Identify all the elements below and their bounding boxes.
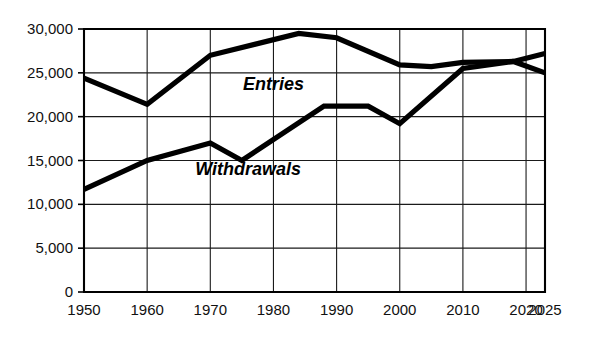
y-axis-label-0: 0 (65, 283, 73, 300)
line-chart: 05,00010,00015,00020,00025,00030,000 195… (0, 0, 601, 341)
y-axis-labels: 05,00010,00015,00020,00025,00030,000 (27, 20, 73, 300)
series-annotations: EntriesWithdrawals (195, 74, 304, 178)
x-axis-label-1970: 1970 (194, 301, 227, 318)
x-axis-label-2000: 2000 (383, 301, 416, 318)
y-axis-label-10000: 10,000 (27, 195, 73, 212)
y-axis-label-30000: 30,000 (27, 20, 73, 37)
y-axis-label-25000: 25,000 (27, 64, 73, 81)
data-series-group (84, 33, 545, 189)
y-axis-label-5000: 5,000 (35, 239, 73, 256)
x-axis-label-1980: 1980 (257, 301, 290, 318)
x-axis-label-2010: 2010 (446, 301, 479, 318)
x-axis-label-1950: 1950 (67, 301, 100, 318)
y-axis-label-15000: 15,000 (27, 152, 73, 169)
withdrawals-label: Withdrawals (195, 159, 301, 179)
y-axis-label-20000: 20,000 (27, 108, 73, 125)
x-axis-labels: 195019601970198019902000201020202025 (67, 301, 561, 318)
x-axis-label-1960: 1960 (130, 301, 163, 318)
series-line-withdrawals (84, 54, 545, 190)
entries-label: Entries (243, 74, 304, 94)
chart-container: 05,00010,00015,00020,00025,00030,000 195… (0, 0, 601, 341)
x-axis-label-2025: 2025 (528, 301, 561, 318)
x-axis-label-1990: 1990 (320, 301, 353, 318)
